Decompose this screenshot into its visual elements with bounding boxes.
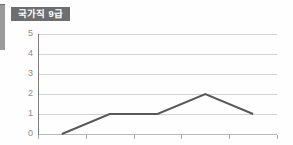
series-line-group xyxy=(38,34,277,134)
x-tick xyxy=(277,135,278,139)
y-tick-label: 5 xyxy=(3,29,33,38)
line-chart: 012345 20182019202020212022 xyxy=(0,26,293,145)
y-axis-spine xyxy=(38,34,39,135)
x-tick xyxy=(134,135,135,139)
plot-area xyxy=(38,34,277,134)
x-tick-label: 2022 xyxy=(230,142,276,145)
series-line xyxy=(62,94,253,134)
x-axis-ticks xyxy=(38,135,277,140)
x-tick-label: 2020 xyxy=(135,142,181,145)
y-tick-label: 1 xyxy=(3,109,33,118)
y-axis-tick-labels: 012345 xyxy=(0,34,33,134)
y-tick-label: 0 xyxy=(3,129,33,138)
x-tick xyxy=(38,135,39,139)
chart-card: 국가직 9급 012345 20182019202020212022 xyxy=(0,0,293,145)
x-tick-label: 2021 xyxy=(182,142,228,145)
x-tick-label: 2018 xyxy=(39,142,85,145)
x-tick xyxy=(229,135,230,139)
x-tick-label: 2019 xyxy=(87,142,133,145)
y-tick-label: 4 xyxy=(3,49,33,58)
chart-title-badge: 국가직 9급 xyxy=(11,7,70,21)
y-tick-label: 2 xyxy=(3,89,33,98)
y-tick-label: 3 xyxy=(3,69,33,78)
x-tick xyxy=(86,135,87,139)
x-axis-tick-labels: 20182019202020212022 xyxy=(38,142,277,145)
x-tick xyxy=(181,135,182,139)
